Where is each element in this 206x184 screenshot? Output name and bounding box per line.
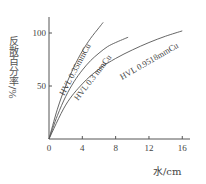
y-axis-label: 反散百分率/%: [4, 36, 18, 99]
y-tick-label: 50: [37, 81, 47, 91]
x-tick-label: 0: [47, 143, 52, 153]
curve-label-3: HVL 0.9518mmCu: [118, 40, 181, 82]
curve-labels: HVL 0.35mmCuHVL 0.3 mmCuHVL 0.9518mmCu: [57, 40, 181, 102]
x-tick-label: 4: [80, 143, 85, 153]
x-tick-label: 12: [144, 143, 153, 153]
axes: 048121650100: [33, 17, 191, 153]
x-tick-label: 8: [113, 143, 118, 153]
x-tick-label: 16: [178, 143, 188, 153]
chart: 048121650100 HVL 0.35mmCuHVL 0.3 mmCuHVL…: [0, 0, 206, 184]
x-axis-label: 水/cm: [153, 163, 181, 178]
y-tick-label: 100: [33, 28, 47, 38]
